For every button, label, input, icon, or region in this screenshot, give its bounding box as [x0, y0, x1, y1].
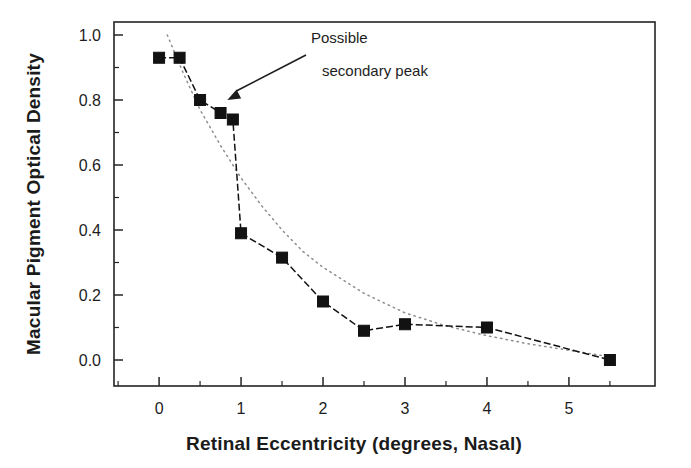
reference-curve	[167, 35, 610, 357]
y-axis-title: Macular Pigment Optical Density	[23, 53, 44, 355]
data-point-marker	[236, 228, 247, 239]
x-tick-label: 5	[564, 400, 573, 417]
data-point-marker	[399, 319, 410, 330]
y-tick-label: 0.6	[79, 157, 101, 174]
x-axis-tick-labels: 012345	[155, 400, 574, 417]
data-point-marker	[195, 95, 206, 106]
data-point-marker	[227, 114, 238, 125]
figure-page: 0.00.20.40.60.81.0 012345 Possible secon…	[0, 0, 691, 468]
annotation-arrow-head	[227, 90, 241, 100]
data-point-marker	[318, 296, 329, 307]
data-series-line	[159, 58, 610, 360]
x-axis-title: Retinal Eccentricity (degrees, Nasal)	[186, 433, 522, 454]
y-tick-label: 0.2	[79, 287, 101, 304]
data-point-marker	[154, 52, 165, 63]
annotation-line-1: Possible	[311, 29, 368, 46]
y-tick-label: 0.8	[79, 92, 101, 109]
data-series-markers	[154, 52, 616, 365]
x-tick-label: 0	[155, 400, 164, 417]
x-tick-label: 2	[319, 400, 328, 417]
data-point-marker	[481, 322, 492, 333]
x-tick-label: 3	[401, 400, 410, 417]
data-point-marker	[604, 355, 615, 366]
x-tick-label: 1	[237, 400, 246, 417]
data-point-marker	[215, 108, 226, 119]
annotation-arrow	[227, 55, 306, 100]
x-axis-ticks	[118, 377, 610, 386]
y-tick-label: 0.4	[79, 222, 101, 239]
annotation-line-2: secondary peak	[322, 62, 428, 79]
y-axis-ticks	[114, 35, 123, 360]
chart-figure: 0.00.20.40.60.81.0 012345 Possible secon…	[0, 0, 691, 468]
data-point-marker	[174, 52, 185, 63]
x-tick-label: 4	[483, 400, 492, 417]
annotation-arrow-shaft	[236, 55, 306, 91]
data-point-marker	[277, 252, 288, 263]
y-tick-label: 1.0	[79, 27, 101, 44]
y-axis-tick-labels: 0.00.20.40.60.81.0	[79, 27, 101, 369]
y-tick-label: 0.0	[79, 352, 101, 369]
data-point-marker	[359, 325, 370, 336]
